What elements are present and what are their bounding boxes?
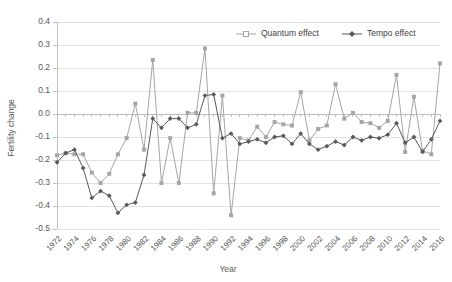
data-point: [229, 213, 233, 217]
x-tick-label: 2010: [375, 234, 394, 253]
data-point: [368, 121, 372, 125]
y-tick-label: -0.4: [35, 200, 50, 210]
series-line: [57, 48, 440, 215]
data-point: [177, 181, 181, 185]
data-point: [194, 111, 198, 115]
data-point: [290, 124, 294, 128]
data-point: [203, 93, 208, 98]
data-point: [55, 153, 59, 157]
series-line: [57, 94, 440, 212]
y-tick-label: -0.2: [35, 154, 50, 164]
x-tick-label: 2014: [410, 234, 429, 253]
data-point: [377, 136, 382, 141]
data-point: [142, 173, 147, 178]
data-point: [186, 111, 190, 115]
data-point: [81, 152, 85, 156]
data-point: [273, 120, 277, 124]
y-axis-title: Fertility change: [6, 99, 16, 157]
data-point: [255, 137, 260, 142]
x-tick-label: 1978: [97, 234, 116, 253]
data-point: [220, 94, 224, 98]
legend-swatch-marker: [349, 31, 355, 37]
data-point: [211, 92, 216, 97]
x-tick-label: 1974: [62, 234, 81, 253]
x-tick-label: 2002: [306, 234, 325, 253]
x-tick-label: 1980: [114, 234, 133, 253]
data-point: [325, 124, 329, 128]
x-tick-label: 1992: [219, 234, 238, 253]
chart-legend: Quantum effectTempo effect: [236, 28, 416, 38]
data-series: [55, 46, 443, 217]
x-tick-label: 2000: [288, 234, 307, 253]
data-point: [334, 82, 338, 86]
y-tick-label: -0.5: [35, 223, 50, 233]
x-tick-label: 2004: [323, 234, 342, 253]
data-point: [81, 166, 86, 171]
data-point: [238, 136, 242, 140]
chart-canvas: 0.40.30.20.10.0-0.1-0.2-0.3-0.4-0.5 1972…: [0, 0, 452, 282]
x-tick-label: 1998: [271, 234, 290, 253]
y-tick-label: 0.3: [38, 39, 50, 49]
x-tick-label: 1988: [184, 234, 203, 253]
data-point: [133, 200, 138, 205]
data-point: [299, 90, 303, 94]
legend-item-tempo-effect[interactable]: Tempo effect: [342, 28, 416, 38]
data-point: [255, 125, 259, 129]
data-point: [72, 147, 77, 152]
fertility-change-chart: 0.40.30.20.10.0-0.1-0.2-0.3-0.4-0.5 1972…: [0, 0, 452, 282]
data-point: [368, 135, 373, 140]
data-point: [264, 135, 268, 139]
data-point: [386, 119, 390, 123]
x-tick-label: 1982: [132, 234, 151, 253]
data-point: [359, 138, 364, 143]
data-point: [203, 46, 207, 50]
data-point: [360, 120, 364, 124]
x-tick-label: 1986: [166, 234, 185, 253]
data-point: [151, 58, 155, 62]
data-point: [324, 144, 329, 149]
x-tick-label: 1990: [201, 234, 220, 253]
legend-item-quantum-effect[interactable]: Quantum effect: [236, 28, 320, 38]
y-tick-label: 0.1: [38, 85, 50, 95]
data-point: [133, 102, 137, 106]
legend-label: Quantum effect: [261, 28, 320, 38]
data-point: [107, 172, 111, 176]
data-point: [116, 152, 120, 156]
y-tick-label: 0.2: [38, 62, 50, 72]
y-tick-label: -0.1: [35, 131, 50, 141]
data-point: [194, 122, 199, 127]
series-quantum-effect: [55, 46, 442, 217]
data-point: [90, 171, 94, 175]
data-point: [438, 119, 443, 124]
data-point: [142, 148, 146, 152]
data-point: [403, 150, 407, 154]
data-point: [342, 117, 346, 121]
data-point: [316, 127, 320, 131]
data-point: [159, 181, 163, 185]
data-point: [412, 95, 416, 99]
y-tick-label: 0.4: [38, 16, 50, 26]
x-tick-label: 1996: [253, 234, 272, 253]
data-point: [351, 111, 355, 115]
x-tick-label: 2012: [393, 234, 412, 253]
data-point: [125, 136, 129, 140]
legend-label: Tempo effect: [367, 28, 416, 38]
data-point: [281, 122, 285, 126]
x-tick-label: 1994: [236, 234, 255, 253]
data-point: [168, 136, 172, 140]
x-tick-label: 2008: [358, 234, 377, 253]
y-tick-label: -0.3: [35, 177, 50, 187]
x-tick-label: 1984: [149, 234, 168, 253]
y-tick-label: 0.0: [38, 108, 50, 118]
x-tick-label: 1972: [44, 234, 63, 253]
data-point: [429, 152, 433, 156]
data-point: [377, 126, 381, 130]
data-point: [438, 61, 442, 65]
x-tick-label: 2006: [340, 234, 359, 253]
legend-swatch-marker: [244, 32, 249, 37]
data-point: [394, 73, 398, 77]
x-axis-title: Year: [219, 264, 236, 274]
data-point: [107, 193, 112, 198]
data-point: [220, 136, 225, 141]
series-tempo-effect: [55, 92, 443, 215]
